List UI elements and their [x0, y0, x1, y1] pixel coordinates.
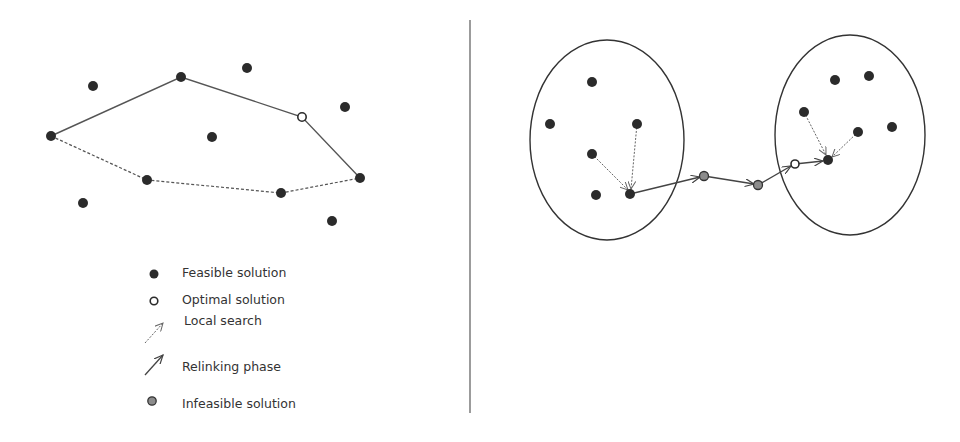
legend-relinking-label: Relinking phase [182, 359, 281, 374]
dashed-path [51, 136, 360, 193]
optimal-point-right [791, 160, 799, 168]
legend-local-search-icon [145, 323, 163, 343]
initial-cluster [530, 40, 684, 240]
legend-local-search-label: Local search [184, 313, 262, 328]
right-panel [530, 35, 925, 240]
legend-optimal-icon [150, 297, 158, 305]
path-relinking-diagram [0, 0, 960, 442]
guiding-cluster [775, 35, 925, 235]
cluster-feasible-points [545, 71, 897, 200]
legend-infeasible-label: Infeasible solution [182, 396, 296, 411]
legend-feasible-label: Feasible solution [182, 265, 286, 280]
legend-optimal-label: Optimal solution [182, 292, 285, 307]
legend-feasible-icon [150, 270, 159, 279]
legend-relinking-icon [145, 355, 163, 375]
optimal-point [298, 113, 306, 121]
solid-path [51, 77, 360, 178]
legend-infeasible-icon [148, 397, 156, 405]
legend-symbols [145, 270, 163, 406]
left-panel [46, 63, 365, 226]
feasible-points [46, 63, 365, 226]
